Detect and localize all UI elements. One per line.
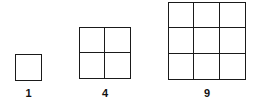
grid-cell bbox=[220, 28, 245, 53]
grid-cell bbox=[80, 53, 105, 78]
grid-cell bbox=[194, 54, 219, 79]
grid-cell bbox=[105, 53, 130, 78]
square-count-label: 4 bbox=[102, 87, 108, 99]
square-grid-1 bbox=[15, 54, 42, 81]
square-grid-9 bbox=[168, 2, 246, 80]
grid-cell bbox=[220, 54, 245, 79]
square-count-label: 9 bbox=[204, 87, 210, 99]
grid-cell bbox=[169, 28, 194, 53]
grid-cell bbox=[105, 28, 130, 53]
grid-cell bbox=[194, 3, 219, 28]
grid-cell bbox=[169, 3, 194, 28]
grid-cell bbox=[169, 54, 194, 79]
grid-cell bbox=[16, 55, 41, 80]
grid-cell bbox=[220, 3, 245, 28]
grid-cell bbox=[194, 28, 219, 53]
square-count-label: 1 bbox=[25, 87, 31, 99]
square-grid-4 bbox=[79, 27, 131, 79]
grid-cell bbox=[80, 28, 105, 53]
